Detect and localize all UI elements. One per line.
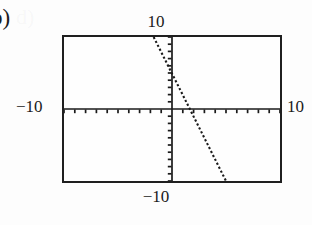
graph-canvas <box>64 37 280 181</box>
window-xmax-label: 10 <box>287 98 304 115</box>
textbook-figure-page: d) b) 10 −10 10 −10 <box>0 0 312 225</box>
window-ymin-label: −10 <box>0 188 312 205</box>
window-xmin-label: −10 <box>16 98 43 115</box>
calculator-viewport <box>62 35 282 183</box>
window-ymax-label: 10 <box>0 13 312 30</box>
